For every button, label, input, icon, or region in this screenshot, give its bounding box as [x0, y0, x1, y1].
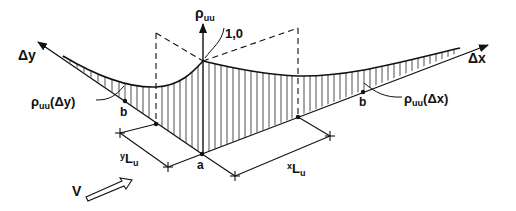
point-b-x	[361, 90, 365, 94]
curve-rho-x	[203, 48, 460, 76]
rho-y-label: ρuu(Δy)	[31, 94, 75, 111]
wind-label: V	[72, 183, 82, 199]
vertical-axis-label: ρuu	[195, 5, 215, 23]
y-length-label: yLu	[120, 151, 138, 168]
point-b-y-label: b	[120, 105, 127, 119]
rho-x-label: ρuu(Δx)	[404, 91, 448, 108]
x-axis-label: Δx	[468, 50, 486, 66]
wind-arrow-icon	[86, 178, 132, 201]
point-b-x-label: b	[359, 95, 366, 109]
hatch-y-region	[63, 40, 198, 160]
x-length-label: xLu	[287, 161, 305, 178]
leader-peak	[205, 28, 224, 58]
peak-value-label: 1,0	[225, 26, 243, 41]
correlation-diagram: ρuu 1,0 Δy Δx ρuu(Δy) ρuu(Δx) b b a yLu …	[0, 0, 516, 211]
point-a-label: a	[197, 158, 204, 172]
point-b-y	[123, 99, 127, 103]
y-axis-label: Δy	[18, 47, 36, 63]
dimension-x-length	[202, 117, 335, 181]
